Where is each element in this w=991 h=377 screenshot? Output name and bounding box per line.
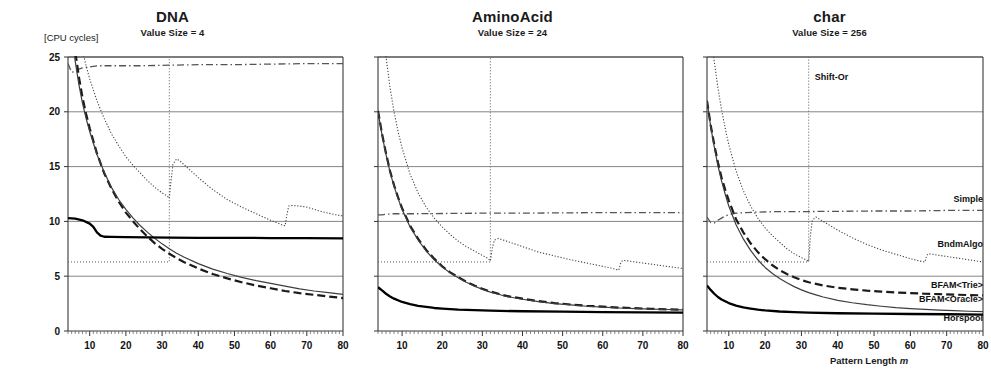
series-label: Shift-Or — [815, 72, 849, 82]
x-axis-title-text: Pattern Length — [830, 355, 900, 366]
series-line-bfamtrie — [68, 0, 343, 298]
series-label: BndmAlgo — [938, 239, 984, 249]
y-tick-label: 10 — [49, 216, 61, 227]
x-tick-label: 40 — [193, 340, 205, 351]
series-label: Simple — [953, 194, 983, 204]
plot-area-char: 1020304050607080Shift-OrSimpleBndmAlgoBF… — [668, 0, 991, 377]
series-label: BFAM<Oracle> — [919, 294, 983, 304]
series-line-bfamtrie — [378, 111, 683, 310]
series-line-shift-or — [378, 57, 490, 262]
x-tick-label: 30 — [157, 340, 169, 351]
chart-panel-dna: DNA Value Size = 4 051015202510203040506… — [0, 0, 345, 377]
x-tick-label: 70 — [637, 340, 649, 351]
chart-panel-aminoacid: AminoAcid Value Size = 24 10203040506070… — [340, 0, 685, 377]
y-tick-label: 25 — [49, 52, 61, 63]
x-tick-label: 60 — [265, 340, 277, 351]
series-line-bndmalgo — [378, 0, 683, 270]
figure-root: [CPU cycles] DNA Value Size = 4 05101520… — [0, 0, 991, 377]
y-tick-label: 0 — [54, 326, 60, 337]
x-tick-label: 20 — [760, 340, 772, 351]
series-line-bndmalgo — [707, 0, 983, 262]
x-axis-title-variable: m — [900, 355, 908, 366]
series-line-simple — [68, 64, 343, 73]
x-tick-label: 10 — [84, 340, 96, 351]
x-tick-label: 60 — [905, 340, 917, 351]
series-label: Horspool — [944, 313, 984, 323]
chart-panel-char: char Value Size = 256 1020304050607080Sh… — [668, 0, 991, 377]
series-line-bfamtrie — [707, 101, 983, 296]
series-line-bndmalgo — [68, 0, 343, 226]
x-axis-title: Pattern Length m — [830, 355, 908, 366]
x-tick-label: 50 — [868, 340, 880, 351]
y-tick-label: 20 — [49, 106, 61, 117]
x-tick-label: 70 — [941, 340, 953, 351]
plot-area-aminoacid: 1020304050607080 — [340, 0, 685, 377]
x-tick-label: 10 — [397, 340, 409, 351]
x-tick-label: 50 — [557, 340, 569, 351]
y-tick-label: 15 — [49, 161, 61, 172]
y-tick-label: 5 — [54, 271, 60, 282]
series-label: BFAM<Trie> — [931, 280, 983, 290]
x-tick-label: 30 — [477, 340, 489, 351]
series-line-shift-or — [707, 57, 809, 262]
series-line-bfamoracle — [378, 112, 683, 310]
plot-area-dna: 05101520251020304050607080 — [0, 0, 345, 377]
x-tick-label: 80 — [977, 340, 989, 351]
x-tick-label: 10 — [723, 340, 735, 351]
series-line-simple — [378, 213, 683, 215]
x-tick-label: 50 — [229, 340, 241, 351]
x-tick-label: 60 — [597, 340, 609, 351]
x-tick-label: 40 — [517, 340, 529, 351]
x-tick-label: 40 — [832, 340, 844, 351]
x-tick-label: 20 — [120, 340, 132, 351]
x-tick-label: 20 — [437, 340, 449, 351]
x-tick-label: 70 — [301, 340, 313, 351]
series-line-bfamoracle — [68, 0, 343, 294]
x-tick-label: 30 — [796, 340, 808, 351]
series-line-shift-or — [68, 57, 169, 262]
